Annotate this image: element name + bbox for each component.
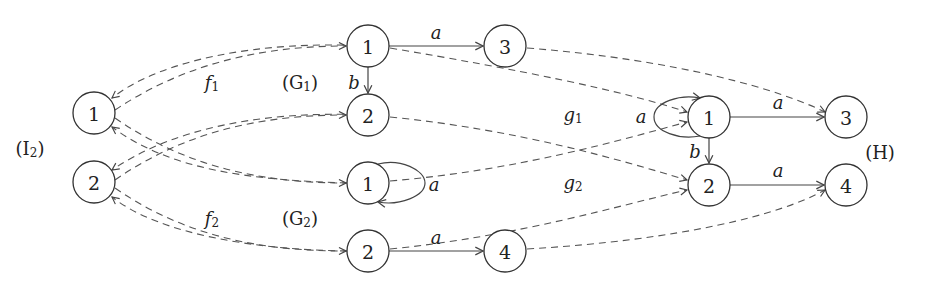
g1-node-1: 1 — [347, 25, 389, 67]
h-node-2: 2 — [688, 164, 730, 206]
f1-arrow-to-g1-node2 — [115, 115, 346, 180]
h-node-1: 1 — [688, 96, 730, 138]
morphism-f2-label: f2 — [203, 208, 219, 231]
morphism-f1-label: f1 — [203, 72, 219, 95]
pushout-diagram: 1 2 1 2 3 1 2 4 1 2 3 4 a b a a a a b a … — [0, 0, 932, 294]
h-node-4: 4 — [825, 164, 867, 206]
h-edge-2-4-label: a — [773, 160, 784, 181]
svg-text:2: 2 — [703, 175, 715, 197]
svg-text:3: 3 — [840, 107, 852, 129]
svg-text:2: 2 — [88, 172, 100, 194]
svg-text:4: 4 — [499, 241, 511, 263]
g2-edge-2-4-label: a — [431, 227, 442, 248]
svg-text:1: 1 — [88, 103, 100, 125]
h-edge-1-3-label: a — [773, 92, 784, 113]
svg-text:1: 1 — [703, 107, 715, 129]
morphism-f2-edges — [112, 127, 347, 251]
svg-text:1: 1 — [362, 173, 374, 195]
i2-node-2: 2 — [73, 161, 115, 203]
graph-label-i2: (I2) — [16, 138, 45, 161]
f2-arrow-to-g2-node1 — [115, 118, 346, 183]
h-edge-1-2-label: b — [689, 141, 701, 162]
morphism-f1-edges — [112, 45, 368, 170]
h-node-3: 3 — [825, 96, 867, 138]
svg-text:4: 4 — [840, 175, 852, 197]
g2-node-2: 2 — [347, 230, 389, 272]
i2-node-1: 1 — [73, 92, 115, 134]
g2-node-1: 1 — [347, 162, 389, 204]
g1-edge-1-2-label: b — [348, 72, 360, 93]
morphism-g1-label: g1 — [563, 104, 582, 127]
graph-label-g2: (G2) — [282, 208, 318, 231]
graph-label-h: (H) — [865, 142, 895, 163]
g2-node-4: 4 — [484, 230, 526, 272]
g1-edge-1-3-label: a — [431, 22, 442, 43]
svg-text:1: 1 — [362, 36, 374, 58]
g1-node-3: 3 — [484, 25, 526, 67]
graph-label-g1: (G1) — [282, 72, 318, 95]
svg-text:2: 2 — [362, 105, 374, 127]
g1-node-2: 2 — [347, 94, 389, 136]
svg-text:3: 3 — [499, 36, 511, 58]
morphism-g1-edges — [390, 48, 825, 180]
h-loop-label: a — [636, 106, 647, 127]
g2-loop-label: a — [429, 174, 440, 195]
morphism-g2-label: g2 — [563, 172, 582, 195]
svg-text:2: 2 — [362, 241, 374, 263]
